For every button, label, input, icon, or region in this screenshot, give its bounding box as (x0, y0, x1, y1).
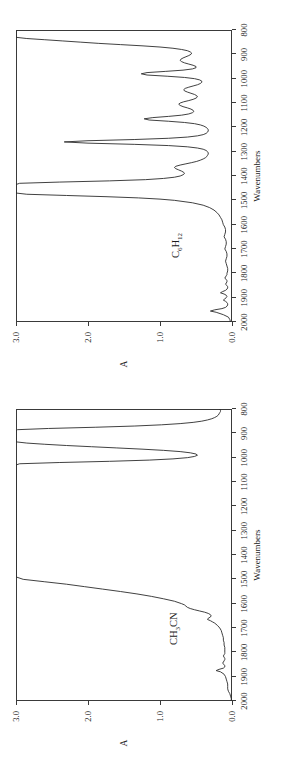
x-axis-ticks-bottom: 2000190018001700160015001400130012001100… (233, 409, 251, 701)
x-tick-mark (232, 505, 236, 506)
y-tick-mark (16, 701, 17, 705)
x-tick-mark (232, 651, 236, 652)
x-tick-mark (232, 53, 236, 54)
x-tick-mark (232, 432, 236, 433)
x-tick-mark (232, 126, 236, 127)
x-tick-label: 1500 (239, 192, 249, 209)
x-tick-label: 1600 (239, 216, 249, 233)
x-axis-ticks-top: 2000190018001700160015001400130012001100… (233, 30, 251, 322)
spectrum-curve-bottom (16, 409, 232, 701)
y-tick-label: 3.0 (11, 332, 21, 343)
x-tick-label: 2000 (239, 313, 249, 330)
y-tick-mark (88, 701, 89, 705)
spectrum-svg-top (16, 30, 232, 322)
y-tick-mark (232, 701, 233, 705)
x-tick-label: 1700 (239, 619, 249, 636)
x-axis-title-top: Wavenumbers (252, 30, 262, 322)
x-tick-mark (232, 29, 236, 30)
x-tick-label: 900 (239, 48, 249, 61)
x-tick-label: 800 (239, 402, 249, 415)
x-tick-label: 1300 (239, 522, 249, 539)
x-tick-mark (232, 248, 236, 249)
y-tick-label: 0.0 (227, 711, 237, 722)
x-tick-label: 1900 (239, 289, 249, 306)
x-tick-label: 800 (239, 23, 249, 36)
y-tick-mark (160, 322, 161, 326)
x-tick-label: 1200 (239, 498, 249, 515)
spectrum-curve-top (16, 30, 232, 322)
x-axis-title-bottom: Wavenumbers (252, 409, 262, 701)
x-tick-mark (232, 627, 236, 628)
x-tick-label: 1900 (239, 668, 249, 685)
x-tick-mark (232, 224, 236, 225)
y-axis-title-top: A (16, 356, 232, 372)
x-tick-label: 1500 (239, 571, 249, 588)
spectrum-panel-top: 2000190018001700160015001400130012001100… (0, 0, 300, 378)
rotated-canvas-bottom: 2000190018001700160015001400130012001100… (0, 379, 300, 757)
compound-formula-top: C6H12 (170, 233, 184, 258)
y-tick-label: 2.0 (83, 332, 93, 343)
x-tick-label: 900 (239, 427, 249, 440)
x-tick-mark (232, 554, 236, 555)
y-tick-label: 1.0 (155, 711, 165, 722)
y-tick-mark (160, 701, 161, 705)
x-tick-label: 1400 (239, 167, 249, 184)
x-tick-mark (232, 676, 236, 677)
x-tick-label: 1800 (239, 644, 249, 661)
x-tick-mark (232, 272, 236, 273)
x-tick-label: 1800 (239, 265, 249, 282)
rotated-canvas-top: 2000190018001700160015001400130012001100… (0, 0, 300, 378)
spectrum-panel-bottom: 2000190018001700160015001400130012001100… (0, 379, 300, 757)
x-tick-label: 1100 (239, 473, 249, 490)
figure-root: 2000190018001700160015001400130012001100… (0, 0, 300, 757)
x-tick-mark (232, 603, 236, 604)
x-tick-mark (232, 457, 236, 458)
compound-formula-bottom: CH3CN (168, 612, 182, 645)
x-tick-mark (232, 78, 236, 79)
y-tick-mark (232, 322, 233, 326)
x-tick-mark (232, 408, 236, 409)
y-tick-label: 1.0 (155, 332, 165, 343)
x-tick-label: 2000 (239, 692, 249, 709)
x-tick-label: 1700 (239, 240, 249, 257)
y-tick-label: 3.0 (11, 711, 21, 722)
x-tick-mark (232, 578, 236, 579)
y-tick-mark (16, 322, 17, 326)
x-tick-label: 1600 (239, 595, 249, 612)
x-tick-label: 1100 (239, 94, 249, 111)
x-tick-label: 1000 (239, 449, 249, 466)
x-tick-mark (232, 530, 236, 531)
x-tick-mark (232, 481, 236, 482)
x-tick-mark (232, 151, 236, 152)
y-tick-mark (88, 322, 89, 326)
chart-bottom: 2000190018001700160015001400130012001100… (0, 379, 300, 757)
x-tick-label: 1400 (239, 546, 249, 563)
x-tick-label: 1200 (239, 119, 249, 136)
x-tick-label: 1000 (239, 70, 249, 87)
y-tick-label: 2.0 (83, 711, 93, 722)
x-tick-mark (232, 175, 236, 176)
x-tick-mark (232, 102, 236, 103)
x-tick-mark (232, 297, 236, 298)
x-tick-mark (232, 199, 236, 200)
spectrum-svg-bottom (16, 409, 232, 701)
y-tick-label: 0.0 (227, 332, 237, 343)
x-tick-label: 1300 (239, 143, 249, 160)
y-axis-title-bottom: A (16, 735, 232, 751)
chart-top: 2000190018001700160015001400130012001100… (0, 0, 300, 378)
